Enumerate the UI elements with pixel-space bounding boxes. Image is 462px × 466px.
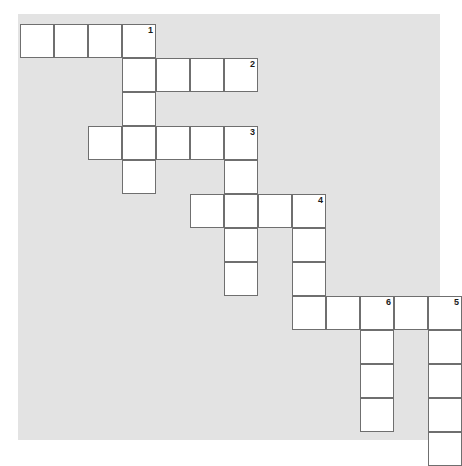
crossword-cell[interactable]	[224, 228, 258, 262]
crossword-cell[interactable]	[326, 296, 360, 330]
crossword-cell[interactable]: 5	[428, 296, 462, 330]
crossword-cell[interactable]	[190, 126, 224, 160]
crossword-cell[interactable]	[224, 160, 258, 194]
crossword-cell[interactable]	[292, 262, 326, 296]
crossword-cell[interactable]	[428, 330, 462, 364]
crossword-cell[interactable]	[156, 58, 190, 92]
crossword-cell[interactable]: 4	[292, 194, 326, 228]
crossword-cell[interactable]	[428, 432, 462, 466]
clue-number-4: 4	[318, 195, 323, 206]
crossword-cell[interactable]	[122, 126, 156, 160]
crossword-cell[interactable]: 6	[360, 296, 394, 330]
crossword-cell[interactable]	[88, 126, 122, 160]
crossword-cell[interactable]	[156, 126, 190, 160]
clue-number-6: 6	[386, 297, 391, 308]
crossword-cell[interactable]	[360, 398, 394, 432]
clue-number-5: 5	[454, 297, 459, 308]
crossword-cell[interactable]	[88, 24, 122, 58]
crossword-cell[interactable]	[190, 194, 224, 228]
clue-number-3: 3	[250, 127, 255, 138]
clue-number-2: 2	[250, 59, 255, 70]
crossword-cell[interactable]	[292, 228, 326, 262]
crossword-cell[interactable]	[122, 92, 156, 126]
crossword-cell[interactable]	[428, 398, 462, 432]
crossword-cell[interactable]: 2	[224, 58, 258, 92]
crossword-cell[interactable]	[122, 58, 156, 92]
crossword-cell[interactable]	[224, 262, 258, 296]
crossword-cell[interactable]	[190, 58, 224, 92]
crossword-cell[interactable]	[360, 330, 394, 364]
crossword-cell[interactable]	[292, 296, 326, 330]
crossword-cell[interactable]	[20, 24, 54, 58]
crossword-cell[interactable]	[360, 364, 394, 398]
crossword-cell[interactable]	[428, 364, 462, 398]
crossword-cell[interactable]	[258, 194, 292, 228]
crossword-cell[interactable]	[394, 296, 428, 330]
clue-number-1: 1	[148, 25, 153, 36]
crossword-cell[interactable]	[224, 194, 258, 228]
crossword-cell[interactable]	[54, 24, 88, 58]
crossword-cell[interactable]: 3	[224, 126, 258, 160]
crossword-cell[interactable]	[122, 160, 156, 194]
crossword-cell[interactable]: 1	[122, 24, 156, 58]
